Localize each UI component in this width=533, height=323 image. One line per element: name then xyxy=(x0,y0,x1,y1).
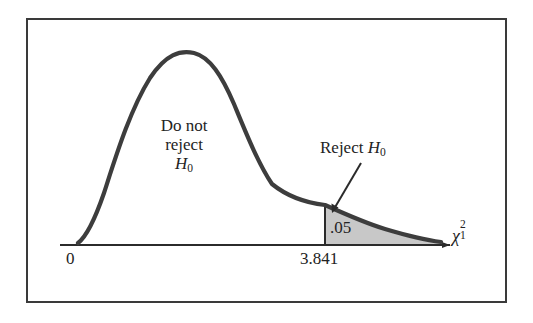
chi-symbol: χ xyxy=(452,226,460,246)
do-not-reject-line-2: reject xyxy=(165,135,203,154)
reject-hypothesis-subscript: 0 xyxy=(380,146,386,159)
figure-root: Do not reject H0 Reject H0 .05 0 3.841 χ… xyxy=(0,0,533,323)
do-not-reject-hypothesis-subscript: 0 xyxy=(187,162,193,175)
x-axis-label-chi-square: χ21 xyxy=(452,224,471,246)
reject-annotation-text: Reject xyxy=(320,138,363,157)
do-not-reject-line-1: Do not xyxy=(161,116,208,135)
reject-hypothesis-symbol: H xyxy=(368,138,380,157)
reject-annotation: Reject H0 xyxy=(320,138,386,160)
tail-area-label: .05 xyxy=(330,218,351,237)
do-not-reject-annotation: Do not reject H0 xyxy=(128,116,240,176)
chi-exponent-and-df: 21 xyxy=(460,224,471,242)
chi-degrees-of-freedom: 1 xyxy=(460,229,466,242)
x-axis-tick-label-zero: 0 xyxy=(66,249,75,268)
do-not-reject-hypothesis-symbol: H xyxy=(175,154,187,173)
chart-frame-border xyxy=(26,18,507,303)
x-axis-tick-label-critical-value: 3.841 xyxy=(300,249,338,268)
